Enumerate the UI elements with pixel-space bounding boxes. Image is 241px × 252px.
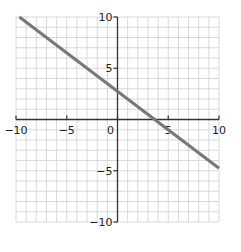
y-tick-label: 10 [99, 11, 113, 24]
line-chart: −10−50510−10−5510 [0, 0, 241, 252]
x-tick-label: 0 [107, 124, 114, 137]
y-tick-label: −5 [96, 165, 112, 178]
data-line [19, 17, 219, 168]
data-series [19, 17, 219, 168]
x-tick-label: 10 [212, 124, 226, 137]
y-tick-label: 5 [106, 62, 113, 75]
x-tick-label: −10 [4, 124, 27, 137]
y-tick-label: −10 [89, 216, 112, 229]
x-tick-label: −5 [59, 124, 75, 137]
